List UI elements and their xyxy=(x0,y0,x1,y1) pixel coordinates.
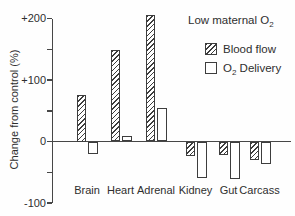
hatched-swatch-icon xyxy=(205,43,217,55)
y-tick-label: -100 xyxy=(8,197,46,210)
legend-item-blood-flow: Blood flow xyxy=(205,42,276,56)
y-axis-tick xyxy=(47,110,52,112)
bar-o2-delivery-adrenal xyxy=(157,108,167,141)
bar-o2-delivery-kidney xyxy=(197,142,207,178)
bar-chart-figure: Change from control (%) Low maternal O2 … xyxy=(0,0,295,216)
legend-label-blood-flow: Blood flow xyxy=(223,42,276,56)
legend-title: Low maternal O2 xyxy=(188,13,292,27)
open-swatch-icon xyxy=(205,62,217,74)
category-label-carcass: Carcass xyxy=(232,184,288,197)
bar-blood-flow-gut xyxy=(219,142,228,155)
y-tick-label: +200 xyxy=(8,12,46,25)
y-axis-tick xyxy=(47,18,52,20)
y-tick-label: +100 xyxy=(8,74,46,87)
y-tick-label: 0 xyxy=(8,135,46,148)
bar-blood-flow-kidney xyxy=(186,142,195,156)
bar-blood-flow-brain xyxy=(77,95,86,141)
y-axis-line xyxy=(52,19,54,204)
bar-o2-delivery-gut xyxy=(230,142,240,179)
legend-title-text: Low maternal O xyxy=(188,14,269,26)
legend-label-text: Delivery xyxy=(236,62,281,74)
y-axis-tick xyxy=(47,202,52,204)
y-axis-tick xyxy=(47,49,52,51)
legend-title-subscript: 2 xyxy=(269,20,273,29)
bar-o2-delivery-heart xyxy=(122,136,132,142)
legend-label-text: O xyxy=(223,62,232,74)
bar-blood-flow-heart xyxy=(111,50,120,141)
bar-o2-delivery-carcass xyxy=(261,142,271,164)
bar-o2-delivery-brain xyxy=(88,142,98,154)
y-axis-tick xyxy=(47,172,52,174)
legend-label-text: Blood flow xyxy=(223,43,276,55)
legend-item-o2-delivery: O2 Delivery xyxy=(205,61,281,75)
bar-blood-flow-carcass xyxy=(250,142,259,160)
bar-blood-flow-adrenal xyxy=(146,15,155,142)
y-axis-title: Change from control (%) xyxy=(8,30,21,190)
y-axis-tick xyxy=(47,79,52,81)
legend-label-o2-delivery: O2 Delivery xyxy=(223,61,281,75)
